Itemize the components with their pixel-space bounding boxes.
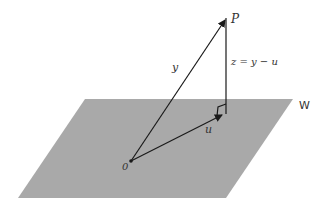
label-u: u <box>205 123 212 136</box>
label-plane-w: W <box>299 99 310 112</box>
diagram-canvas: P y z = y − u u 0 W <box>0 0 328 213</box>
label-y: y <box>171 61 179 74</box>
label-p: P <box>230 12 240 26</box>
label-origin: 0 <box>122 161 129 172</box>
origin-point <box>129 159 133 163</box>
label-z: z = y − u <box>230 56 278 67</box>
orthogonal-projection-diagram: P y z = y − u u 0 W <box>0 0 328 213</box>
